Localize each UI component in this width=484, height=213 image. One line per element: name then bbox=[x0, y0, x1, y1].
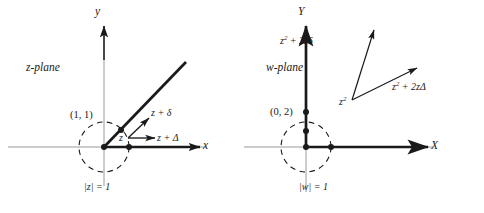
w-plane-label-text: w-plane bbox=[266, 61, 303, 73]
z-plane-label: z-plane bbox=[26, 62, 60, 74]
w-point-label: (0, 2) bbox=[270, 107, 293, 118]
w-point-0-2 bbox=[303, 109, 309, 115]
z-unit-circle-label: |z| = 1 bbox=[84, 182, 110, 192]
figure-container: z-plane y x (1, 1) z z + δ z + Δ |z| = 1 bbox=[0, 0, 484, 213]
z-point-on-x-axis bbox=[126, 144, 132, 150]
w-z2-plus-2zdelta-vector bbox=[352, 30, 374, 100]
z-plane-canvas bbox=[0, 0, 242, 213]
z-delta-vector bbox=[128, 118, 149, 138]
z-plus-delta-label: z + δ bbox=[151, 108, 171, 118]
w-z2-plus-2zdelta-label: z2 + 2zδ bbox=[280, 36, 313, 46]
w-point-on-X-axis bbox=[328, 144, 334, 150]
w-label-1-rest: + 2zδ bbox=[287, 35, 312, 46]
w-vector-origin-exponent: 2 bbox=[343, 95, 346, 102]
z-axis-y-label: y bbox=[95, 6, 100, 18]
w-axis-Y-label: Y bbox=[298, 6, 304, 18]
w-unit-circle-label: |w| = 1 bbox=[299, 182, 328, 192]
z-origin-point bbox=[101, 144, 107, 150]
w-plane-label: w-plane bbox=[266, 62, 303, 74]
w-label-2-rest: + 2zΔ bbox=[399, 81, 426, 92]
w-plane-panel: w-plane Y X (0, 2) z2 z2 + 2zδ z2 + 2zΔ … bbox=[242, 0, 484, 213]
z-axis-x-label: x bbox=[203, 140, 208, 152]
z-vector-origin-label: z bbox=[119, 133, 123, 143]
w-point-on-Y-axis bbox=[303, 128, 309, 134]
w-axis-X-label: X bbox=[431, 140, 438, 152]
z-plus-Delta-label: z + Δ bbox=[157, 133, 179, 143]
w-z2-plus-2zDelta-label: z2 + 2zΔ bbox=[392, 82, 426, 92]
z-plane-panel: z-plane y x (1, 1) z z + δ z + Δ |z| = 1 bbox=[0, 0, 242, 213]
z-plane-label-text: z-plane bbox=[26, 61, 60, 73]
w-origin-point bbox=[303, 144, 309, 150]
z-point-label: (1, 1) bbox=[70, 110, 93, 121]
w-vector-origin-label: z2 bbox=[339, 97, 346, 107]
